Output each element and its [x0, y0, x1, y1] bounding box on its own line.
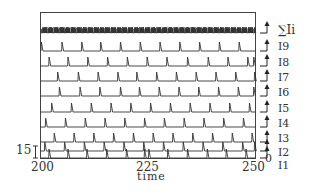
- row-label-i3: I3: [278, 132, 289, 145]
- row-label-i7: I7: [278, 71, 289, 84]
- trace-i6: [41, 87, 256, 96]
- trace-i3: [41, 133, 256, 142]
- arrow-head-icon: [265, 54, 270, 59]
- trace-i1: [41, 149, 256, 158]
- row-label-i4: I4: [278, 117, 289, 130]
- trace-sum: [41, 27, 256, 33]
- arrow-head-icon: [265, 84, 270, 89]
- row-label-sum: ∑Ii: [278, 23, 295, 37]
- arrow-head-icon: [265, 130, 270, 135]
- arrow-head-icon: [265, 21, 270, 26]
- traces: [41, 27, 257, 158]
- trace-i4: [41, 118, 256, 127]
- trace-i5: [41, 103, 256, 112]
- trace-i7: [41, 72, 257, 81]
- x-axis-label: time: [137, 170, 166, 183]
- x-tick-250: 250: [242, 160, 265, 174]
- zero-label: 0: [265, 152, 272, 165]
- plot-frame: [41, 13, 256, 159]
- arrow-head-icon: [265, 69, 270, 74]
- arrow-head-icon: [265, 39, 270, 44]
- trace-i2: [41, 142, 257, 151]
- scale-label: 15: [16, 143, 31, 157]
- row-label-i5: I5: [278, 102, 289, 115]
- row-label-i1: I1: [278, 159, 289, 172]
- arrow-head-icon: [265, 115, 270, 120]
- arrow-head-icon: [265, 100, 270, 105]
- row-label-i8: I8: [278, 56, 289, 69]
- row-label-i2: I2: [278, 146, 289, 159]
- row-label-i9: I9: [278, 40, 289, 53]
- arrow-head-icon: [265, 146, 270, 151]
- trace-i9: [41, 42, 256, 51]
- scale-bar: [33, 146, 38, 158]
- trace-i8: [41, 57, 256, 66]
- x-tick-200: 200: [31, 160, 54, 174]
- row-scale-arrows: [260, 21, 270, 158]
- row-label-i6: I6: [278, 86, 289, 99]
